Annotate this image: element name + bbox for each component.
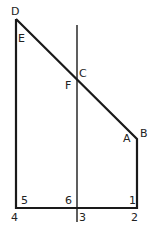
label-1: 1 [129, 194, 136, 207]
label-5: 5 [21, 194, 28, 207]
label-2: 2 [131, 211, 138, 224]
label-F: F [65, 79, 71, 92]
label-B: B [140, 127, 148, 140]
label-4: 4 [11, 211, 18, 224]
label-D: D [11, 5, 19, 18]
label-A: A [123, 132, 131, 145]
diagram-canvas: D E C F A B 5 6 1 4 3 2 [0, 0, 162, 238]
label-E: E [18, 32, 25, 45]
label-C: C [79, 67, 87, 80]
label-6: 6 [65, 194, 72, 207]
label-3: 3 [79, 211, 86, 224]
